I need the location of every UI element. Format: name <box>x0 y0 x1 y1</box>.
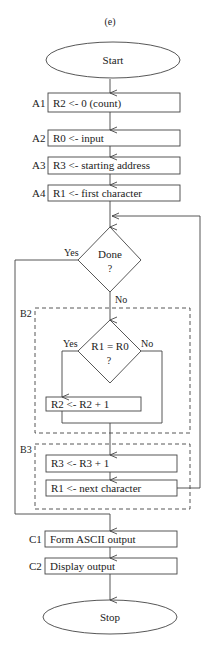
compare-no-label: No <box>141 338 153 349</box>
arrow-loop-back <box>112 216 200 488</box>
done-question: ? <box>108 263 113 274</box>
step-c2: C2 <box>29 560 42 572</box>
figure-label: (e) <box>104 16 115 28</box>
step-c1: C1 <box>29 533 42 545</box>
label-increment-addr: R3 <- R3 + 1 <box>51 457 109 469</box>
step-a4: A4 <box>32 187 46 199</box>
label-a1: R2 <- 0 (count) <box>53 97 122 110</box>
start-label: Start <box>103 54 124 66</box>
label-c2: Display output <box>50 560 115 572</box>
line-compare-no <box>62 351 162 423</box>
done-label: Done <box>98 248 122 260</box>
line-done-yes <box>15 260 110 514</box>
step-a3: A3 <box>32 159 46 171</box>
step-a1: A1 <box>32 97 45 109</box>
stop-label: Stop <box>100 611 121 623</box>
compare-question: ? <box>107 355 112 366</box>
label-a4: R1 <- first character <box>53 187 142 199</box>
label-c1: Form ASCII output <box>50 533 136 545</box>
label-increment-count: R2 <- R2 + 1 <box>51 398 109 410</box>
label-next-char: R1 <- next character <box>51 482 142 494</box>
arrow-compare-yes <box>62 351 78 397</box>
compare-label: R1 = R0 <box>91 340 129 352</box>
label-a3: R3 <- starting address <box>53 159 150 171</box>
done-yes-label: Yes <box>64 247 79 258</box>
done-no-label: No <box>115 294 127 305</box>
group-b2-label: B2 <box>20 308 32 319</box>
compare-yes-label: Yes <box>63 338 78 349</box>
group-b2 <box>35 308 190 433</box>
group-b3-label: B3 <box>20 444 32 455</box>
flowchart: (e) Start A1 R2 <- 0 (count) A2 R0 <- in… <box>0 0 207 648</box>
label-a2: R0 <- input <box>53 132 104 144</box>
step-a2: A2 <box>32 132 45 144</box>
group-b3 <box>35 444 190 509</box>
